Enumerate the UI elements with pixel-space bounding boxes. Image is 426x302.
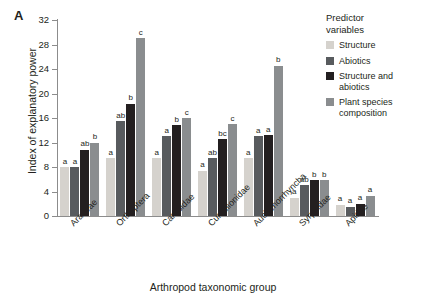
- legend-swatch: [326, 41, 334, 49]
- significance-letter: c: [179, 109, 195, 117]
- bar: [198, 171, 207, 216]
- y-tick-label: 12: [28, 137, 49, 148]
- bar-group: aabbcc: [198, 20, 237, 216]
- bar: [152, 158, 161, 216]
- y-tick-label: 0: [28, 210, 49, 221]
- bar-group: aabbc: [106, 20, 145, 216]
- legend-title: Predictor variables: [326, 12, 426, 35]
- y-tick-label: 24: [28, 63, 49, 74]
- figure-panel-a: A Index of explanatory power 04812162024…: [0, 0, 426, 302]
- bar: [106, 158, 115, 216]
- y-tick-label: 16: [28, 112, 49, 123]
- bar: [162, 136, 171, 216]
- legend-swatch: [326, 72, 334, 80]
- bar: [290, 198, 299, 216]
- legend-item: Structure: [326, 40, 426, 51]
- legend-item: Structure and abiotics: [326, 71, 426, 92]
- bar-group: aabc: [152, 20, 191, 216]
- legend-swatch: [326, 57, 334, 65]
- legend-items: StructureAbioticsStructure and abioticsP…: [326, 40, 426, 118]
- legend: Predictor variables StructureAbioticsStr…: [326, 12, 426, 123]
- legend-item: Plant species composition: [326, 97, 426, 118]
- significance-letter: a: [362, 186, 378, 194]
- legend-title-line2: variables: [326, 24, 426, 36]
- y-tick-mark: [52, 216, 57, 217]
- legend-label: Structure: [339, 40, 376, 51]
- significance-letter: b: [316, 171, 332, 179]
- x-axis-title: Arthropod taxonomic group: [0, 281, 426, 293]
- y-tick-label: 32: [28, 14, 49, 25]
- legend-title-line1: Predictor: [326, 12, 426, 24]
- y-tick-label: 4: [28, 186, 49, 197]
- significance-letter: b: [270, 56, 286, 64]
- legend-item: Abiotics: [326, 56, 426, 67]
- legend-label: Structure and abiotics: [339, 71, 426, 92]
- bar: [336, 205, 345, 216]
- legend-swatch: [326, 98, 334, 106]
- bar: [116, 121, 125, 216]
- bar-group: aaabb: [60, 20, 99, 216]
- significance-letter: c: [225, 115, 241, 123]
- y-tick-label: 8: [28, 161, 49, 172]
- bar: [60, 167, 69, 216]
- significance-letter: c: [133, 29, 149, 37]
- bar: [254, 136, 263, 216]
- significance-letter: b: [87, 133, 103, 141]
- bar: [208, 158, 217, 216]
- y-tick-label: 20: [28, 88, 49, 99]
- y-tick-label: 28: [28, 39, 49, 50]
- bar: [70, 167, 79, 216]
- legend-label: Abiotics: [339, 56, 371, 67]
- legend-label: Plant species composition: [339, 97, 426, 118]
- panel-letter: A: [14, 8, 23, 23]
